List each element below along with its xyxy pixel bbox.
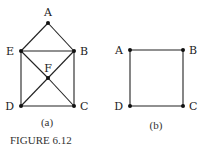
vertex-a-C — [72, 104, 76, 108]
edge-a-FD — [21, 78, 48, 106]
vertex-label-b-B: B — [189, 44, 197, 57]
vertex-label-b-A: A — [114, 44, 124, 57]
figure-6-12: ABCDEF ABCD (a) (b) FIGURE 6.12 — [0, 0, 202, 149]
sublabel-b: (b) — [150, 119, 163, 132]
edge-a-AB — [48, 23, 74, 51]
graph-b: ABCD — [114, 44, 197, 113]
vertex-label-a-F: F — [44, 62, 52, 75]
sublabel-a: (a) — [41, 116, 54, 129]
vertex-a-A — [46, 21, 50, 25]
vertex-b-B — [181, 48, 185, 52]
vertex-label-a-A: A — [43, 6, 53, 19]
vertex-a-F — [46, 76, 50, 80]
graph-a: ABCDEF — [5, 6, 88, 113]
vertex-label-a-C: C — [80, 100, 88, 113]
vertex-b-D — [128, 104, 132, 108]
vertex-label-a-B: B — [80, 45, 88, 58]
vertex-label-a-D: D — [5, 100, 14, 113]
vertex-b-A — [128, 48, 132, 52]
figure-caption: FIGURE 6.12 — [10, 134, 72, 146]
vertex-a-E — [19, 49, 23, 53]
vertex-a-D — [19, 104, 23, 108]
vertex-a-B — [72, 49, 76, 53]
edge-a-BF — [48, 51, 74, 78]
vertex-label-b-C: C — [189, 100, 197, 113]
edge-a-AE — [21, 23, 48, 51]
edge-a-FC — [48, 78, 74, 106]
vertex-label-a-E: E — [6, 45, 14, 58]
vertex-label-b-D: D — [114, 100, 123, 113]
vertex-b-C — [181, 104, 185, 108]
